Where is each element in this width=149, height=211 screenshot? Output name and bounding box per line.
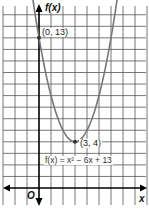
y-axis-down-arrow-icon (36, 198, 43, 206)
equation-text: f(x) = x² − 6x + 13 (45, 155, 112, 165)
origin-label: O (27, 191, 35, 201)
function-graph (0, 0, 149, 211)
equation-label: f(x) = x² − 6x + 13 (44, 156, 113, 165)
y-axis-label: f(x) (45, 3, 61, 13)
x-axis-label: x (139, 194, 145, 204)
x-axis-right-arrow-icon (140, 185, 147, 192)
grid-lines (3, 6, 147, 205)
point-label-y-intercept: (0, 13) (41, 28, 69, 37)
y-axis-up-arrow-icon (36, 4, 43, 12)
data-point (73, 140, 77, 144)
x-axis-left-arrow-icon (3, 185, 10, 192)
point-label-vertex: (3, 4) (79, 139, 102, 148)
